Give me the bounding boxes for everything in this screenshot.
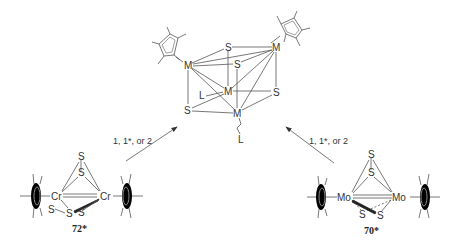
chromium-atom: Cr [51,191,62,202]
molybdenum-atom: Mo [392,192,406,203]
chromium-atom: Cr [100,191,111,202]
metal-atom: M [184,60,192,71]
sulfur-atom: S [377,210,384,221]
arrow-condition-right: 1, 1*, or 2 [309,136,348,146]
sulfur-atom: S [368,167,375,178]
cp-star-ring-left-mo [307,176,337,218]
sulfur-atom: S [234,59,241,70]
cp-star-ring-right-cr [113,174,143,218]
sulfur-atom: S [273,87,280,98]
ligand-label: L [199,90,205,101]
molybdenum-atom: Mo [337,192,351,203]
cp-star-ring-right-mo [410,174,440,218]
sulfur-atom: S [184,105,191,116]
reactant-cr-complex: S S Cr Cr S S S 72* [20,151,143,234]
sulfur-atom: S [78,167,85,178]
sulfur-atom: S [368,149,375,160]
compound-number: 72* [72,223,87,234]
sulfur-atom: S [78,207,85,218]
sulfur-atom: S [48,204,55,215]
sulfur-atom: S [78,151,85,162]
reaction-arrow-right: 1, 1*, or 2 [286,127,348,163]
compound-number: 70* [364,225,379,236]
reactant-mo-complex: S S Mo Mo S S 70* [307,149,440,236]
metal-atom: M [224,86,232,97]
metal-atom: M [233,108,241,119]
arrow-condition-left: 1, 1*, or 2 [113,136,152,146]
sulfur-atom: S [66,208,73,219]
metal-atom: M [272,42,280,53]
sulfur-atom: S [225,42,232,53]
reaction-arrow-left: 1, 1*, or 2 [113,127,177,161]
ligand-label: L [238,134,244,145]
cp-star-ring-right [277,11,310,46]
product-cluster: M M M M S S S S L L [152,11,310,145]
sulfur-atom: S [359,209,366,220]
cp-star-ring-left-cr [20,174,50,218]
cp-star-ring-left [152,27,186,64]
reaction-scheme: M M M M S S S S L L 1, 1*, or 2 1, 1*, o… [0,0,458,248]
